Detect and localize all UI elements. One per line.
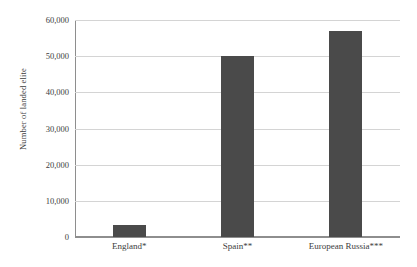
y-tick-label: 50,000 xyxy=(7,52,69,61)
y-tick-label: 60,000 xyxy=(7,16,69,25)
y-tick-label: 10,000 xyxy=(7,197,69,206)
gridline xyxy=(75,20,400,21)
bar[interactable] xyxy=(329,31,362,237)
bar-chart: Number of landed elite 010,00020,00030,0… xyxy=(0,0,417,267)
bar[interactable] xyxy=(113,225,146,237)
y-tick-label: 0 xyxy=(7,233,69,242)
bar[interactable] xyxy=(221,56,254,237)
axis-baseline xyxy=(75,237,400,238)
y-tick-label: 30,000 xyxy=(7,125,69,134)
plot-area xyxy=(75,20,400,237)
x-tick-label: European Russia*** xyxy=(309,242,383,251)
y-tick-label: 40,000 xyxy=(7,88,69,97)
y-tick-label: 20,000 xyxy=(7,161,69,170)
x-tick-label: England* xyxy=(112,242,147,251)
x-tick-label: Spain** xyxy=(223,242,253,251)
